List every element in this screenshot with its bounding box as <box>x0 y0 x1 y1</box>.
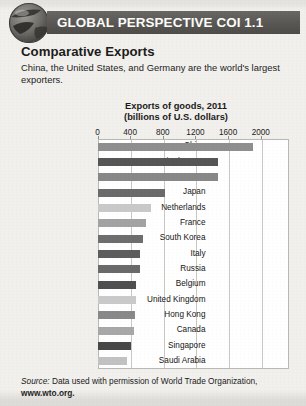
bar-rows: ChinaUnited StatesGermanyJapanNetherland… <box>0 139 306 369</box>
category-label: Hong Kong <box>164 310 205 319</box>
bar-row: United States <box>0 154 306 169</box>
chart-title-line2: (billions of U.S. dollars) <box>60 112 292 123</box>
bar <box>98 204 152 212</box>
bar <box>98 143 253 151</box>
bar <box>98 311 135 319</box>
bar <box>98 265 141 273</box>
bar <box>98 327 135 335</box>
bar <box>98 173 218 181</box>
bar-row: Italy <box>0 246 306 261</box>
bar-row: United Kingdom <box>0 292 306 307</box>
bar-row: Saudi Arabia <box>0 354 306 369</box>
category-label: Italy <box>190 249 205 258</box>
category-label: Russia <box>180 264 205 273</box>
bar-row: Russia <box>0 262 306 277</box>
bar-row: Japan <box>0 185 306 200</box>
category-label: France <box>180 218 206 227</box>
category-label: Saudi Arabia <box>159 356 206 365</box>
category-label: Belgium <box>176 279 206 288</box>
bar-row: Germany <box>0 170 306 185</box>
bar-row: Canada <box>0 323 306 338</box>
bar <box>98 235 143 243</box>
category-label: South Korea <box>160 233 206 242</box>
category-label: United Kingdom <box>147 295 206 304</box>
bar <box>98 357 128 365</box>
bar-row: Singapore <box>0 338 306 353</box>
bar-row: China <box>0 139 306 154</box>
bar <box>98 296 137 304</box>
bar <box>98 219 147 227</box>
bar <box>98 189 165 197</box>
bar <box>98 250 141 258</box>
chart-title-line1: Exports of goods, 2011 <box>125 101 227 111</box>
source-label: Source: <box>21 376 50 386</box>
bar-row: South Korea <box>0 231 306 246</box>
bar <box>98 342 131 350</box>
bar-row: France <box>0 216 306 231</box>
bar <box>98 158 219 166</box>
intro-paragraph: China, the United States, and Germany ar… <box>21 62 283 86</box>
source-note: Source: Data used with permission of Wor… <box>21 376 285 399</box>
banner-title: GLOBAL PERSPECTIVE COI 1.1 <box>57 13 297 33</box>
bar-row: Netherlands <box>0 200 306 215</box>
category-label: Canada <box>177 325 206 334</box>
source-url[interactable]: www.wto.org. <box>21 388 75 398</box>
bar <box>98 281 137 289</box>
category-label: Singapore <box>168 341 206 350</box>
figure-page: GLOBAL PERSPECTIVE COI 1.1 Comparative E… <box>0 0 306 406</box>
page-title: Comparative Exports <box>21 44 155 59</box>
bar-row: Hong Kong <box>0 308 306 323</box>
globe-icon <box>7 2 51 44</box>
bar-row: Belgium <box>0 277 306 292</box>
source-text: Data used with permission of World Trade… <box>50 376 258 386</box>
category-label: Japan <box>183 187 205 196</box>
chart-title: Exports of goods, 2011 (billions of U.S.… <box>60 101 292 124</box>
category-label: Netherlands <box>161 203 205 212</box>
